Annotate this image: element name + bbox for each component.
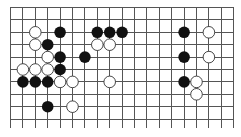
white-stone <box>17 64 29 76</box>
black-stone <box>42 39 54 51</box>
white-stone <box>92 39 104 51</box>
black-stone <box>54 64 66 76</box>
white-stone <box>191 76 203 88</box>
white-stone <box>191 89 203 101</box>
black-stone <box>54 51 66 63</box>
black-stone <box>178 76 190 88</box>
black-stone <box>17 76 29 88</box>
white-stone <box>42 51 54 63</box>
white-stone <box>104 39 116 51</box>
white-stone <box>30 27 42 39</box>
white-stone <box>30 64 42 76</box>
black-stone <box>42 76 54 88</box>
white-stone <box>54 76 66 88</box>
white-stone <box>203 27 215 39</box>
black-stone <box>116 27 128 39</box>
black-stone <box>54 27 66 39</box>
black-stone <box>30 76 42 88</box>
black-stone <box>104 27 116 39</box>
white-stone <box>67 101 79 113</box>
white-stone <box>67 76 79 88</box>
black-stone <box>79 51 91 63</box>
black-stone <box>178 51 190 63</box>
white-stone <box>42 64 54 76</box>
white-stone <box>104 76 116 88</box>
black-stone <box>92 27 104 39</box>
white-stone <box>30 39 42 51</box>
black-stone <box>42 101 54 113</box>
black-stone <box>178 27 190 39</box>
go-board[interactable] <box>0 0 241 137</box>
white-stone <box>203 51 215 63</box>
